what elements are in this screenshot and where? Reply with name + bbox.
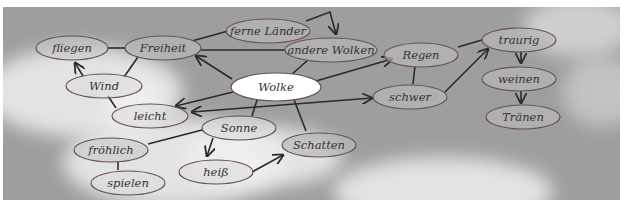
node-label: Tränen [502,110,544,124]
node-heiss[interactable]: heiß [179,160,253,184]
edge-freiheit-ferne [192,31,228,41]
node-label: Wind [89,79,119,93]
node-leicht[interactable]: leicht [112,104,188,128]
node-label: Wolke [258,80,294,94]
node-spielen[interactable]: spielen [91,171,165,195]
node-label: Schatten [293,138,345,152]
node-schwer[interactable]: schwer [373,85,447,109]
node-ferne-laender[interactable]: ferne Länder [226,19,310,43]
edge-regen-schwer [413,66,415,84]
node-label: Freiheit [139,41,187,55]
edge-sonne-heiss [207,138,213,156]
node-label: spielen [107,176,149,190]
edge-heiss-schatten [252,155,283,172]
node-label: Sonne [221,121,258,135]
node-wind[interactable]: Wind [66,74,142,98]
edge-regen-traurig [458,40,482,47]
node-label: Regen [401,48,439,62]
node-wolke[interactable]: Wolke [231,73,321,101]
node-label: schwer [389,90,432,104]
edge-wolke-leicht [176,92,233,106]
node-label: fröhlich [87,143,133,157]
node-label: fliegen [51,41,92,55]
edge-wolke-schatten [293,97,306,131]
node-traurig[interactable]: traurig [482,28,556,52]
node-weinen[interactable]: weinen [482,67,556,91]
node-andere-wolken[interactable]: andere Wolken [285,38,377,62]
node-label: weinen [498,72,540,86]
node-label: andere Wolken [287,43,374,57]
node-froehlich[interactable]: fröhlich [74,138,148,162]
node-schatten[interactable]: Schatten [282,133,356,157]
node-label: ferne Länder [229,24,307,38]
node-regen[interactable]: Regen [384,43,458,67]
edge-wind-freiheit [124,57,138,77]
node-label: traurig [499,33,540,47]
node-fliegen[interactable]: fliegen [36,36,108,60]
node-freiheit[interactable]: Freiheit [125,36,201,60]
mind-map: fliegen Freiheit ferne Länder andere Wol… [0,0,624,203]
node-traenen[interactable]: Tränen [486,105,560,129]
edge-wolke-andere [291,60,308,75]
edge-wolke-freiheit [196,56,232,79]
node-label: leicht [134,109,167,123]
node-label: heiß [203,165,229,179]
edge-wind-fliegen [75,63,83,76]
edge-sonne-froehlich [148,130,202,144]
node-sonne[interactable]: Sonne [202,116,276,140]
